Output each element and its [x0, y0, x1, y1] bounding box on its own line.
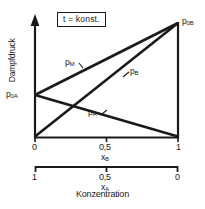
label-p0A-text: p — [6, 89, 11, 99]
leader-pA — [102, 110, 107, 114]
leader-pM — [79, 63, 83, 68]
top-tick-label-0: 0 — [32, 143, 37, 152]
label-p0B: p0B — [182, 17, 194, 26]
label-pB-text: p — [130, 66, 135, 76]
curve-pA — [35, 95, 178, 137]
x-axis-caption: Konzentration — [0, 190, 205, 199]
label-pM: pM — [65, 58, 74, 67]
leader-pB — [123, 72, 129, 77]
top-tick-label-0.5: 0,5 — [99, 143, 111, 152]
label-pM-sub: M — [70, 60, 75, 67]
label-p0B-text: p — [182, 16, 187, 26]
bottom-tick-label-1: 1 — [32, 173, 37, 182]
bottom-tick-label-0: 0 — [175, 173, 180, 182]
label-p0B-sub: 0B — [187, 19, 194, 26]
bottom-tick-label-0.5: 0,5 — [99, 173, 111, 182]
curve-pB — [35, 23, 178, 137]
label-pA-text: p — [88, 107, 93, 117]
label-p0A-sub: 0A — [11, 92, 18, 99]
y-axis — [31, 14, 40, 138]
label-pA-sub: A — [93, 110, 97, 117]
top-tick-label-1: 1 — [176, 143, 181, 152]
curve-pM — [35, 23, 178, 95]
label-pB-sub: B — [135, 69, 139, 76]
y-axis-label: Dampfdruck — [8, 32, 17, 88]
top-axis-variable: xB — [101, 153, 109, 162]
label-pA: pA — [88, 108, 96, 117]
label-pM-text: p — [65, 57, 70, 67]
top-axis-variable-sub: B — [105, 155, 109, 162]
condition-annotation-box: t = konst. — [57, 12, 106, 27]
label-pB: pB — [130, 67, 138, 76]
vapor-pressure-diagram: t = konst. Dampfdruck p0A p0B pM pB pA 0… — [0, 0, 205, 209]
label-p0A: p0A — [6, 90, 18, 99]
